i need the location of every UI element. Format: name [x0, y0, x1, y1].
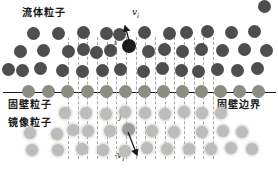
- mirror-particle: [82, 125, 94, 137]
- mirror-mapping-dashed-line: [136, 37, 137, 159]
- wall-particle: [233, 85, 246, 98]
- mirror-mapping-dashed-line: [116, 37, 117, 159]
- fluid-particle: [180, 26, 193, 39]
- wall-particle: [119, 85, 132, 98]
- fluid-particle: [96, 64, 109, 77]
- fluid-particle: [225, 26, 238, 39]
- fluid-particle: [201, 25, 214, 38]
- fluid-particle: [175, 64, 188, 77]
- mirror-mapping-dashed-line: [174, 37, 175, 159]
- fluid-particle: [231, 64, 244, 77]
- fluid-particle: [90, 46, 103, 59]
- mirror-particle: [178, 106, 190, 118]
- fluid-particle: [27, 27, 40, 40]
- fluid-particle: [251, 62, 264, 75]
- mirror-particle: [168, 126, 180, 138]
- fluid-particle: [14, 45, 27, 58]
- mirror-mapping-dashed-line: [126, 37, 127, 159]
- wall-particles-label: 固壁粒子: [8, 100, 52, 110]
- velocity-i-subscript: i: [137, 12, 139, 20]
- mirror-particle: [76, 143, 88, 155]
- fluid-particle: [2, 63, 15, 76]
- fluid-particle: [137, 65, 150, 78]
- wall-particle: [176, 85, 189, 98]
- mirror-particle: [104, 125, 116, 137]
- mirror-mapping-dashed-line: [155, 37, 156, 159]
- fluid-particle: [176, 45, 189, 58]
- mirror-particle: [100, 108, 112, 120]
- mirror-particle: [26, 144, 38, 156]
- mirror-particle: [51, 128, 63, 140]
- fluid-particle: [34, 62, 47, 75]
- fluid-particle: [100, 27, 113, 40]
- fluid-particle: [260, 44, 273, 57]
- wall-particle: [42, 85, 55, 98]
- fluid-particle: [158, 43, 171, 56]
- fluid-particle: [248, 25, 261, 38]
- fluid-particle: [76, 65, 89, 78]
- fluid-particle: [258, 0, 271, 13]
- mirror-mapping-dashed-line: [194, 37, 195, 159]
- mirror-particle: [139, 107, 151, 119]
- mirror-particle: [236, 126, 248, 138]
- mirror-particle: [97, 144, 109, 156]
- fluid-particle: [142, 45, 155, 58]
- mirror-particle: [196, 126, 208, 138]
- mirror-particle: [246, 143, 258, 155]
- fluid-particle: [216, 44, 229, 57]
- wall-particle: [81, 85, 94, 98]
- mirror-particle: [205, 143, 217, 155]
- fluid-particles-label: 流体粒子: [22, 8, 66, 18]
- fluid-particle: [238, 43, 251, 56]
- wall-particle: [22, 85, 35, 98]
- mirror-particle: [24, 127, 36, 139]
- fluid-particle: [77, 26, 90, 39]
- particle-i: [122, 39, 136, 53]
- diagram-canvas: 流体粒子 固壁粒子 镜像粒子 固壁边界 vi -vi i j: [0, 0, 278, 177]
- mirror-particle: [217, 125, 229, 137]
- fluid-particle: [113, 28, 126, 41]
- fluid-particle: [163, 27, 176, 40]
- mirror-particle: [215, 107, 227, 119]
- mirror-mapping-dashed-line: [78, 37, 79, 159]
- fluid-particle: [138, 26, 151, 39]
- mirror-particle: [225, 142, 237, 154]
- mirror-mapping-dashed-line: [213, 37, 214, 159]
- mirror-particle: [52, 144, 64, 156]
- fluid-particle: [37, 44, 50, 57]
- wall-particle: [195, 85, 208, 98]
- mirror-particle: [146, 125, 158, 137]
- wall-particle: [214, 85, 227, 98]
- fluid-particle: [156, 62, 169, 75]
- fluid-particle: [195, 43, 208, 56]
- fluid-particle: [56, 64, 69, 77]
- mirror-particle: [196, 107, 208, 119]
- mirror-particle: [80, 107, 92, 119]
- mirror-particle: [67, 124, 79, 136]
- fluid-particle: [77, 43, 90, 56]
- mirror-particle: [59, 107, 71, 119]
- mirror-particle: [159, 108, 171, 120]
- wall-particle: [100, 85, 113, 98]
- mirror-mapping-dashed-line: [87, 37, 88, 159]
- particle-j: [122, 123, 135, 136]
- fluid-particle: [104, 44, 117, 57]
- fluid-particle: [62, 45, 75, 58]
- velocity-i-label: vi: [132, 8, 139, 19]
- mirror-particle: [119, 145, 131, 157]
- mirror-particle: [183, 143, 195, 155]
- wall-particle: [252, 85, 265, 98]
- wall-particle: [138, 85, 151, 98]
- fluid-particle: [52, 27, 65, 40]
- mirror-particle: [119, 106, 131, 118]
- fluid-particle: [16, 64, 29, 77]
- wall-particle: [61, 85, 74, 98]
- mirror-particle: [161, 143, 173, 155]
- fluid-particle: [114, 63, 127, 76]
- mirror-particle: [141, 142, 153, 154]
- wall-particle: [157, 85, 170, 98]
- fluid-particle: [192, 65, 205, 78]
- fluid-particle: [211, 63, 224, 76]
